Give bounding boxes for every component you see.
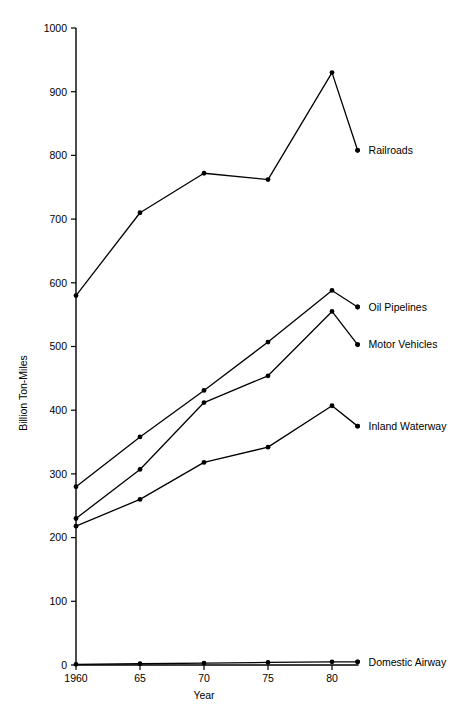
series-label-text: Inland Waterway: [369, 420, 448, 432]
data-point-marker: [74, 293, 79, 298]
data-point-marker: [202, 388, 207, 393]
series-label-dot: [355, 305, 360, 310]
data-point-marker: [74, 524, 79, 529]
series-label-dot: [355, 342, 360, 347]
x-axis-title: Year: [193, 689, 215, 701]
data-point-marker: [74, 484, 79, 489]
x-tick-label: 75: [262, 672, 274, 684]
data-point-marker: [266, 177, 271, 182]
data-point-marker: [138, 661, 143, 666]
y-tick-label: 300: [49, 468, 67, 480]
data-point-marker: [266, 445, 271, 450]
y-tick-label: 100: [49, 595, 67, 607]
series-label-text: Railroads: [369, 144, 413, 156]
y-tick-label: 0: [61, 659, 67, 671]
data-point-marker: [138, 435, 143, 440]
y-tick-label: 800: [49, 149, 67, 161]
data-point-marker: [330, 403, 335, 408]
x-tick-label: 1960: [64, 672, 88, 684]
y-tick-label: 1000: [44, 22, 68, 34]
chart-background: [0, 0, 469, 719]
data-point-marker: [330, 659, 335, 664]
data-point-marker: [202, 171, 207, 176]
x-tick-label: 65: [134, 672, 146, 684]
series-label-text: Motor Vehicles: [369, 338, 438, 350]
series-label-text: Domestic Airway: [369, 656, 447, 668]
data-point-marker: [202, 400, 207, 405]
series-label-dot: [355, 148, 360, 153]
series-label-inland-waterway: Inland Waterway: [355, 420, 447, 432]
series-label-domestic-airway: Domestic Airway: [355, 656, 447, 668]
series-label-text: Oil Pipelines: [369, 301, 427, 313]
y-tick-label: 600: [49, 277, 67, 289]
data-point-marker: [202, 661, 207, 666]
data-point-marker: [138, 497, 143, 502]
data-point-marker: [138, 467, 143, 472]
y-tick-label: 700: [49, 213, 67, 225]
x-tick-label: 70: [198, 672, 210, 684]
data-point-marker: [202, 460, 207, 465]
data-point-marker: [266, 340, 271, 345]
data-point-marker: [330, 288, 335, 293]
data-point-marker: [330, 309, 335, 314]
data-point-marker: [138, 210, 143, 215]
series-label-dot: [355, 659, 360, 664]
data-point-marker: [266, 660, 271, 665]
data-point-marker: [74, 662, 79, 667]
data-point-marker: [330, 70, 335, 75]
data-point-marker: [266, 373, 271, 378]
y-tick-label: 900: [49, 86, 67, 98]
y-axis-title: Billion Ton-Miles: [17, 355, 29, 431]
y-tick-label: 500: [49, 340, 67, 352]
line-chart: 01002003004005006007008009001000 1960657…: [0, 0, 469, 719]
x-tick-label: 80: [326, 672, 338, 684]
y-tick-label: 400: [49, 404, 67, 416]
chart-canvas: 01002003004005006007008009001000 1960657…: [0, 0, 469, 719]
data-point-marker: [74, 516, 79, 521]
series-label-dot: [355, 424, 360, 429]
y-tick-label: 200: [49, 531, 67, 543]
